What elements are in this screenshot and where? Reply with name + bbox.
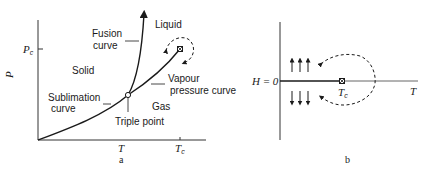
vapour-curve-label-line1: Vapour <box>168 73 200 84</box>
triple-point-marker <box>125 92 130 97</box>
fusion-curve-label-line2: curve <box>93 40 118 51</box>
t-label: T <box>118 142 125 154</box>
sublimation-curve-label-line2: curve <box>51 103 76 114</box>
spin-down-arrows <box>292 91 308 103</box>
region-solid-label: Solid <box>72 65 94 76</box>
panel-a-caption: a <box>119 154 124 165</box>
pc-label: Pc <box>22 43 34 56</box>
panel-b: H = 0 Tc T b <box>251 22 418 165</box>
panel-a: Pc P T Tc Liquid Solid Gas Fusion curve <box>3 14 237 165</box>
critical-point-marker <box>178 47 183 52</box>
b-critical-loop-arrow <box>321 54 375 105</box>
b-t-label: T <box>410 85 417 97</box>
region-gas-label: Gas <box>152 101 170 112</box>
fusion-curve <box>128 14 144 95</box>
tc-label: Tc <box>175 142 185 155</box>
b-critical-point-marker <box>340 79 345 84</box>
y-axis-label: P <box>3 71 15 79</box>
sublimation-curve-label-line1: Sublimation <box>48 92 100 103</box>
vapour-curve-label-line2: pressure curve <box>170 85 237 96</box>
fusion-curve-label-line1: Fusion <box>92 28 122 39</box>
b-tc-label: Tc <box>338 86 348 99</box>
region-liquid-label: Liquid <box>155 19 182 30</box>
h-zero-label: H = 0 <box>251 75 279 87</box>
spin-up-arrows <box>292 60 308 72</box>
panel-b-caption: b <box>345 154 350 165</box>
triple-point-label: Triple point <box>115 116 164 127</box>
phase-diagram-figure: Pc P T Tc Liquid Solid Gas Fusion curve <box>0 0 426 170</box>
